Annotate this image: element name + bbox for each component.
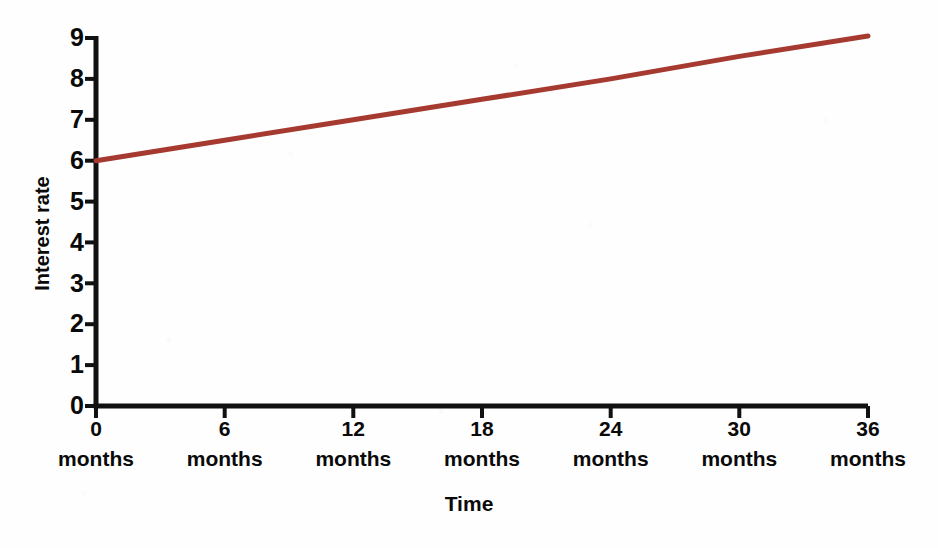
line-chart: 9 8 7 6 5 4 3 2 1 0 Interest rate 0 mont…	[0, 0, 938, 548]
x-tick-value: 6	[155, 414, 295, 444]
y-tick-label: 5	[50, 189, 84, 214]
x-tick-unit: months	[798, 444, 938, 474]
x-tick-value: 24	[541, 414, 681, 444]
x-tick-unit: months	[541, 444, 681, 474]
x-tick-label: 12 months	[283, 414, 423, 474]
x-tick-label: 18 months	[412, 414, 552, 474]
y-tick-label: 1	[50, 352, 84, 377]
x-tick-value: 36	[798, 414, 938, 444]
y-tick-label: 3	[50, 271, 84, 296]
x-tick-value: 0	[26, 414, 166, 444]
x-tick-unit: months	[669, 444, 809, 474]
y-tick-label: 7	[50, 107, 84, 132]
y-axis-title: Interest rate	[31, 154, 54, 314]
x-axis-tick-labels: 0 months 6 months 12 months 18 months 24…	[0, 414, 938, 484]
x-tick-label: 0 months	[26, 414, 166, 474]
x-tick-value: 12	[283, 414, 423, 444]
x-tick-unit: months	[155, 444, 295, 474]
x-tick-value: 30	[669, 414, 809, 444]
x-tick-value: 18	[412, 414, 552, 444]
x-axis-title: Time	[0, 492, 938, 516]
interest-rate-line	[96, 36, 868, 161]
x-tick-label: 6 months	[155, 414, 295, 474]
x-tick-unit: months	[26, 444, 166, 474]
x-tick-label: 36 months	[798, 414, 938, 474]
y-tick-label: 2	[50, 311, 84, 336]
y-tick-label: 4	[50, 230, 84, 255]
y-tick-label: 6	[50, 148, 84, 173]
y-tick-label: 8	[50, 66, 84, 91]
y-tick-label: 9	[50, 25, 84, 50]
x-tick-unit: months	[283, 444, 423, 474]
x-tick-label: 24 months	[541, 414, 681, 474]
x-tick-label: 30 months	[669, 414, 809, 474]
x-tick-unit: months	[412, 444, 552, 474]
